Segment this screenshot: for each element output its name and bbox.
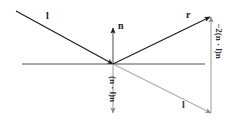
diagram-canvas [0,0,239,123]
label-incident-copy-vector-l: l [182,100,185,110]
label-reflection-term: −2(n · l)n [214,23,223,59]
incident-copy-vector-arrow [113,64,211,113]
label-reflected-vector-r: r [186,10,190,20]
incident-ray-arrow [16,11,113,64]
label-normal-vector-n: n [118,21,124,31]
label-incident-vector-l: l [46,11,49,21]
reflection-diagram: l n r l (n · l)n −2(n · l)n [0,0,239,123]
label-projection-term: (n · l)n [108,76,117,102]
reflected-ray-arrow [113,17,210,64]
